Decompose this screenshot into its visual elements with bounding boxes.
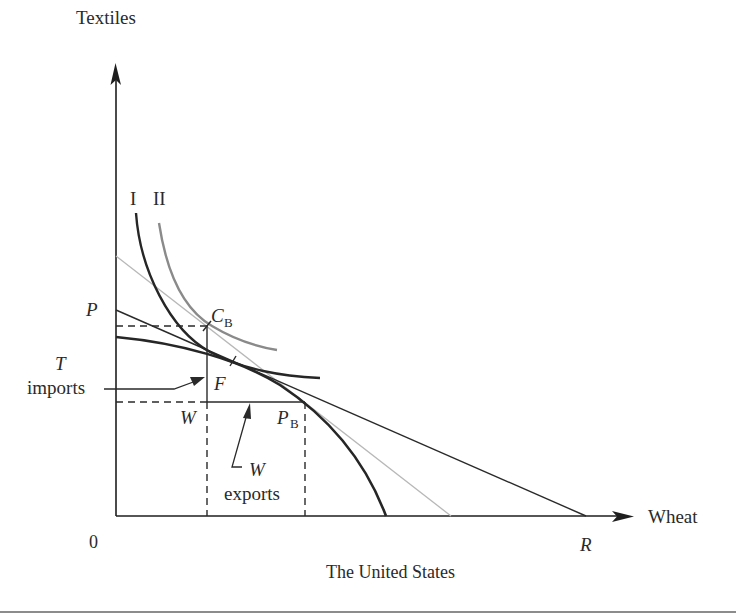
point-P-label: P	[85, 299, 98, 320]
point-PB-label: P	[276, 407, 289, 428]
point-CB-label: C	[211, 305, 224, 326]
curve-II-label: II	[153, 188, 166, 209]
indifference-curve-II	[159, 223, 277, 350]
t-imports-word: imports	[27, 377, 85, 398]
w-exports-word: exports	[224, 483, 280, 504]
figure-caption: The United States	[326, 562, 455, 582]
t-imports-arrowhead-icon	[190, 377, 205, 386]
curve-I-label: I	[130, 188, 136, 209]
axes	[111, 63, 635, 522]
w-exports-letter: W	[249, 459, 267, 480]
origin-label: 0	[89, 532, 98, 552]
point-F-label: F	[213, 373, 226, 394]
y-axis-label: Textiles	[76, 7, 136, 28]
x-axis-label: Wheat	[648, 506, 698, 527]
point-PB-subscript: B	[290, 416, 299, 431]
w-exports-arrow	[232, 414, 247, 467]
t-imports-arrow	[104, 381, 196, 389]
w-exports-arrowhead-icon	[243, 403, 251, 419]
t-imports-letter: T	[55, 353, 67, 374]
point-CB-subscript: B	[224, 315, 233, 330]
point-R-label: R	[579, 534, 592, 555]
indifference-curve-I	[136, 213, 320, 378]
point-W-label: W	[180, 407, 198, 428]
trade-diagram: Textiles Wheat 0 The United States P R C…	[0, 0, 736, 615]
